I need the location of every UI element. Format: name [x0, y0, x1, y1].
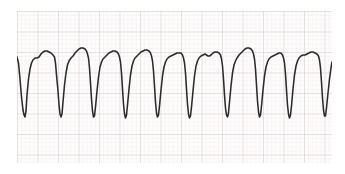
- ecg-figure: ECG rhythm strip 25 mm/s 10 mm/mV: [0, 0, 345, 174]
- ecg-trace: [17, 11, 332, 163]
- ecg-waveform-path: [17, 48, 332, 118]
